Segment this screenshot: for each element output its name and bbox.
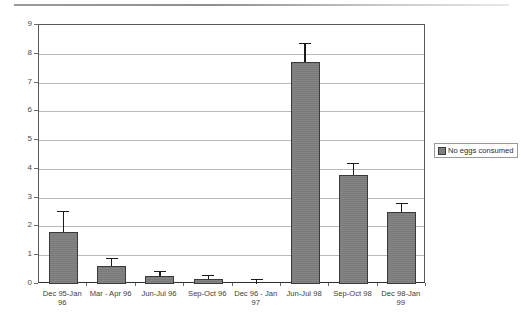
y-axis-tick-label: 1 xyxy=(14,250,32,258)
bar xyxy=(291,62,320,284)
bar-texture xyxy=(292,63,319,283)
x-axis-tick-mark xyxy=(377,283,378,286)
y-axis-tick-label: 5 xyxy=(14,135,32,143)
error-bar-cap xyxy=(299,43,311,44)
gridline xyxy=(39,140,424,141)
y-axis-tick-mark xyxy=(34,225,38,226)
error-bar-stem xyxy=(304,43,305,63)
gridline xyxy=(39,169,424,170)
x-axis-category-label: Jun-Jul 98 xyxy=(280,289,328,298)
y-axis-tick-label: 3 xyxy=(14,193,32,201)
y-axis-tick-label: 7 xyxy=(14,78,32,86)
gridline xyxy=(39,83,424,84)
y-axis-tick-mark xyxy=(34,168,38,169)
y-axis-tick-label: 2 xyxy=(14,221,32,229)
bar xyxy=(49,232,78,284)
legend-color-swatch xyxy=(438,147,446,155)
bar xyxy=(387,212,416,284)
plot-area xyxy=(38,24,425,283)
y-axis-tick-mark xyxy=(34,53,38,54)
x-axis-tick-mark xyxy=(328,283,329,286)
y-axis-tick-mark xyxy=(34,110,38,111)
bar xyxy=(145,276,174,284)
error-bar-stem xyxy=(63,211,64,233)
x-axis-category-label: Sep-Oct 98 xyxy=(328,289,376,298)
bar-texture xyxy=(195,280,222,283)
legend[interactable]: No eggs consumed xyxy=(434,143,518,158)
error-bar-cap xyxy=(57,211,69,212)
bar xyxy=(97,266,126,284)
bar xyxy=(194,279,223,284)
error-bar-cap xyxy=(251,279,263,280)
x-axis-tick-mark xyxy=(280,283,281,286)
bar-texture xyxy=(50,233,77,283)
y-axis-tick-label: 8 xyxy=(14,49,32,57)
y-axis-tick-label: 6 xyxy=(14,106,32,114)
error-bar-cap xyxy=(106,258,118,259)
gridline xyxy=(39,111,424,112)
x-axis-category-label: Jun-Jul 96 xyxy=(135,289,183,298)
x-axis-category-label: Dec 98-Jan 99 xyxy=(377,289,425,307)
bar-texture xyxy=(340,176,367,283)
error-bar-cap xyxy=(396,203,408,204)
x-axis-category-label: Mar - Apr 96 xyxy=(86,289,134,298)
bar-texture xyxy=(146,277,173,283)
error-bar-cap xyxy=(202,275,214,276)
y-axis-tick-mark xyxy=(34,24,38,25)
y-axis-tick-mark xyxy=(34,283,38,284)
bar-texture xyxy=(388,213,415,283)
y-axis-tick-mark xyxy=(34,254,38,255)
y-axis-tick-mark xyxy=(34,82,38,83)
y-axis-tick-mark xyxy=(34,197,38,198)
bar xyxy=(339,175,368,284)
gridline xyxy=(39,54,424,55)
x-axis-tick-mark xyxy=(86,283,87,286)
x-axis-category-label: Dec 96 - Jan 97 xyxy=(232,289,280,307)
y-axis-tick-label: 0 xyxy=(14,279,32,287)
y-axis-tick-label: 9 xyxy=(14,20,32,28)
x-axis-tick-mark xyxy=(135,283,136,286)
y-axis-tick-mark xyxy=(34,139,38,140)
x-axis-tick-mark xyxy=(183,283,184,286)
x-axis-category-label: Sep-Oct 96 xyxy=(183,289,231,298)
legend-item-label: No eggs consumed xyxy=(448,146,513,155)
error-bar-stem xyxy=(353,163,354,175)
y-axis-tick-label: 4 xyxy=(14,164,32,172)
error-bar-cap xyxy=(154,271,166,272)
x-axis-tick-mark xyxy=(232,283,233,286)
x-axis-category-label: Dec 95-Jan 96 xyxy=(38,289,86,307)
x-axis-tick-mark xyxy=(425,283,426,286)
error-bar-cap xyxy=(347,163,359,164)
bar-chart: 0123456789 Dec 95-Jan 96Mar - Apr 96Jun-… xyxy=(0,0,521,319)
bar-texture xyxy=(98,267,125,283)
